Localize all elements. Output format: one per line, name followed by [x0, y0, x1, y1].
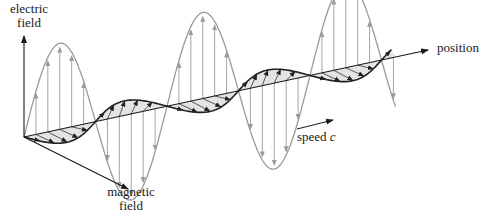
electric-label-line2: field: [6, 16, 52, 30]
speed-label: speed c: [297, 130, 336, 144]
speed-arrow: [297, 120, 333, 129]
position-axis: [24, 50, 428, 137]
magnetic-field-label: magnetic field: [101, 185, 161, 213]
axes: [24, 36, 428, 189]
speed-symbol: c: [330, 129, 336, 144]
magnetic-label-line2: field: [101, 199, 161, 213]
magnetic-field-axis: [24, 137, 128, 189]
electric-label-line1: electric: [6, 2, 52, 16]
magnetic-field-wave: [24, 50, 396, 144]
speed-text: speed: [297, 129, 327, 144]
magnetic-label-line1: magnetic: [101, 185, 161, 199]
magnetic-fill-region: [24, 50, 396, 144]
position-axis-label: position: [437, 41, 479, 55]
electric-field-label: electric field: [6, 2, 52, 30]
